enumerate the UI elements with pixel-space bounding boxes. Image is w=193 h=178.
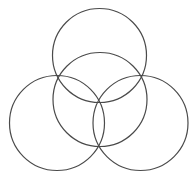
intersection-points	[57, 76, 144, 148]
four-circle-diagram	[0, 0, 193, 178]
circle-left	[10, 76, 105, 171]
circle-top	[53, 9, 147, 103]
circle-center	[53, 53, 147, 147]
